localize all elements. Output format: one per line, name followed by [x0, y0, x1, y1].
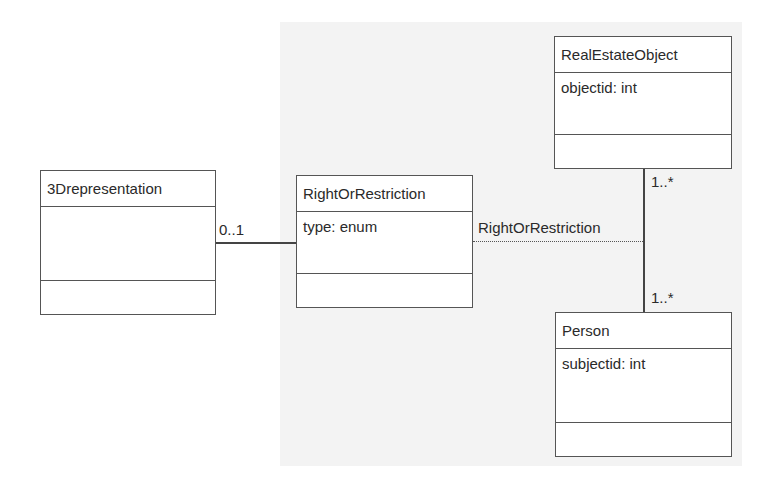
multiplicity-label-person: 1..*	[651, 289, 674, 306]
class-realestateobject[interactable]: RealEstateObject objectid: int	[554, 36, 732, 169]
class-3drepresentation[interactable]: 3Drepresentation	[40, 170, 216, 315]
class-person[interactable]: Person subjectid: int	[555, 312, 732, 457]
class-operations	[555, 135, 731, 168]
attribute-subjectid: subjectid: int	[562, 355, 645, 372]
class-name: RealEstateObject	[555, 37, 731, 73]
class-name: Person	[556, 313, 731, 349]
class-operations	[556, 423, 731, 456]
association-class-label: RightOrRestriction	[478, 219, 601, 236]
association-line-3drep-ror	[216, 242, 296, 244]
class-name: 3Drepresentation	[41, 171, 215, 207]
association-line-reo-person	[643, 169, 645, 312]
association-class-dashed-line	[473, 241, 643, 242]
class-rightorrestriction[interactable]: RightOrRestriction type: enum	[296, 175, 473, 308]
class-operations	[41, 281, 215, 314]
multiplicity-label-reo: 1..*	[651, 173, 674, 190]
multiplicity-label-3drep: 0..1	[219, 221, 244, 238]
class-name: RightOrRestriction	[297, 176, 472, 212]
class-operations	[297, 274, 472, 307]
attribute-type: type: enum	[303, 218, 377, 235]
attribute-objectid: objectid: int	[561, 79, 637, 96]
class-attributes: objectid: int	[555, 73, 731, 135]
class-attributes	[41, 207, 215, 281]
class-attributes: subjectid: int	[556, 349, 731, 423]
class-attributes: type: enum	[297, 212, 472, 274]
